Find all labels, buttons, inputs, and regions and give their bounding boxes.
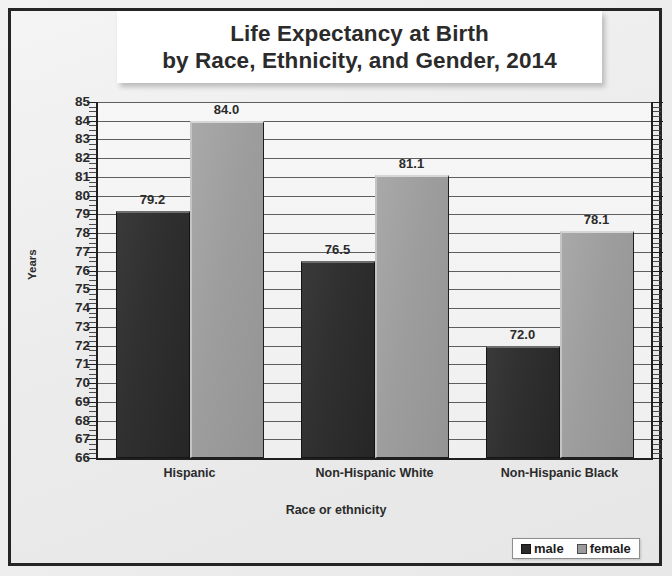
- axis-tick: [89, 135, 96, 136]
- axis-tick: [89, 369, 96, 370]
- y-tick-label: 68: [50, 414, 90, 428]
- axis-tick: [89, 378, 96, 379]
- legend-item-female[interactable]: female: [577, 541, 631, 556]
- axis-tick: [89, 182, 96, 183]
- axis-tick: [89, 111, 96, 112]
- x-tick-label-0: Hispanic: [163, 466, 215, 480]
- axis-tick: [653, 294, 661, 295]
- axis-tick: [89, 149, 96, 150]
- axis-tick: [653, 144, 661, 145]
- bar-value-label-female-0: 84.0: [214, 102, 239, 117]
- legend-swatch-male-icon: [521, 544, 531, 554]
- axis-tick: [89, 317, 96, 318]
- legend: male female: [512, 538, 640, 559]
- bar-value-label-male-0: 79.2: [140, 192, 165, 207]
- axis-tick: [89, 294, 96, 295]
- axis-tick: [653, 177, 663, 178]
- axis-tick: [89, 125, 96, 126]
- axis-tick: [89, 224, 96, 225]
- bar-male-0[interactable]: [116, 211, 190, 458]
- x-tick-label-2: Non-Hispanic Black: [501, 466, 618, 480]
- axis-tick: [653, 257, 661, 258]
- bar-male-1[interactable]: [301, 261, 375, 458]
- axis-tick: [89, 219, 96, 220]
- bar-value-label-male-2: 72.0: [510, 327, 535, 342]
- axis-tick: [89, 322, 96, 323]
- axis-tick: [653, 214, 663, 215]
- y-tick-label: 79: [50, 208, 90, 222]
- axis-tick: [653, 168, 661, 169]
- axis-tick: [89, 191, 96, 192]
- axis-tick: [89, 210, 96, 211]
- axis-tick: [653, 430, 661, 431]
- axis-tick: [89, 303, 96, 304]
- legend-label-male: male: [534, 541, 564, 556]
- axis-tick: [653, 392, 661, 393]
- axis-tick: [653, 416, 661, 417]
- y-tick-label: 77: [50, 245, 90, 259]
- bar-female-0[interactable]: [190, 121, 264, 458]
- axis-tick: [89, 425, 96, 426]
- bar-male-2[interactable]: [486, 346, 560, 458]
- axis-tick: [89, 168, 96, 169]
- axis-tick: [89, 144, 96, 145]
- axis-tick: [89, 453, 96, 454]
- axis-tick: [89, 243, 96, 244]
- y-tick-label: 73: [50, 320, 90, 334]
- axis-tick: [653, 383, 663, 384]
- axis-tick: [653, 350, 661, 351]
- legend-label-female: female: [590, 541, 631, 556]
- axis-tick: [89, 280, 96, 281]
- axis-tick: [653, 125, 661, 126]
- y-tick-label: 82: [50, 151, 90, 165]
- axis-tick: [653, 285, 661, 286]
- axis-tick: [653, 360, 661, 361]
- bar-female-1[interactable]: [375, 175, 449, 458]
- axis-tick: [653, 154, 661, 155]
- axis-tick: [653, 149, 661, 150]
- y-axis-title: Years: [26, 249, 38, 280]
- y-tick-label: 78: [50, 226, 90, 240]
- legend-item-male[interactable]: male: [521, 541, 564, 556]
- gridline: [97, 102, 652, 103]
- axis-tick: [89, 388, 96, 389]
- axis-tick: [653, 289, 663, 290]
- axis-tick: [653, 111, 661, 112]
- axis-tick: [89, 163, 96, 164]
- axis-tick: [653, 280, 661, 281]
- axis-tick: [653, 346, 663, 347]
- axis-tick: [653, 374, 661, 375]
- y-tick-label: 74: [50, 301, 90, 315]
- axis-tick: [89, 355, 96, 356]
- axis-tick: [89, 411, 96, 412]
- axis-tick: [653, 444, 661, 445]
- axis-tick: [653, 308, 663, 309]
- axis-tick: [653, 369, 661, 370]
- axis-tick: [653, 421, 663, 422]
- axis-tick: [89, 116, 96, 117]
- axis-tick: [653, 388, 661, 389]
- axis-tick: [653, 275, 661, 276]
- axis-tick: [653, 191, 661, 192]
- y-tick-label: 66: [50, 451, 90, 465]
- axis-tick: [89, 275, 96, 276]
- axis-tick: [653, 210, 661, 211]
- axis-tick: [653, 449, 661, 450]
- bar-female-2[interactable]: [560, 231, 634, 458]
- axis-tick: [653, 135, 661, 136]
- axis-tick: [653, 121, 663, 122]
- axis-tick: [89, 374, 96, 375]
- bar-value-label-female-2: 78.1: [584, 212, 609, 227]
- axis-tick: [653, 196, 663, 197]
- axis-tick: [653, 116, 661, 117]
- axis-tick: [653, 163, 661, 164]
- axis-tick: [89, 360, 96, 361]
- axis-tick: [89, 247, 96, 248]
- axis-tick: [89, 228, 96, 229]
- x-axis-line: [96, 458, 653, 460]
- y-tick-label: 67: [50, 433, 90, 447]
- axis-tick: [89, 416, 96, 417]
- y-tick-label: 83: [50, 133, 90, 147]
- axis-tick: [89, 257, 96, 258]
- axis-tick: [89, 449, 96, 450]
